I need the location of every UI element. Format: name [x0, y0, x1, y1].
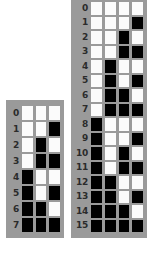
bit-cells	[90, 117, 144, 132]
row-index-label: 14	[75, 204, 90, 219]
bit-cell-on	[90, 219, 103, 234]
bit-cell-on	[118, 88, 131, 103]
bit-cell-on	[90, 146, 103, 161]
row-index-label: 2	[10, 137, 21, 153]
table-row: 8	[75, 117, 144, 132]
table-row: 7	[75, 103, 144, 118]
bit-cell-off	[90, 45, 103, 60]
bit-cell-on	[118, 30, 131, 45]
bit-cell-off	[35, 121, 48, 137]
bit-cell-off	[118, 16, 131, 31]
bit-cell-on	[104, 74, 117, 89]
bit-cells	[90, 161, 144, 176]
bit-cell-on	[118, 146, 131, 161]
row-index-label: 1	[10, 121, 21, 137]
row-index-label: 6	[10, 201, 21, 217]
bit-cell-on	[48, 153, 61, 169]
table-row: 15	[75, 219, 144, 234]
bit-cell-off	[131, 146, 144, 161]
bit-cell-on	[131, 190, 144, 205]
table-row: 14	[75, 204, 144, 219]
bit-cell-on	[35, 153, 48, 169]
table-row: 11	[75, 161, 144, 176]
bit-cell-on	[90, 132, 103, 147]
row-index-label: 4	[10, 169, 21, 185]
bit-cells	[90, 132, 144, 147]
bit-cell-off	[104, 16, 117, 31]
bit-cells	[90, 103, 144, 118]
row-index-label: 0	[10, 105, 21, 121]
bit-cell-on	[35, 217, 48, 233]
bit-cell-on	[131, 103, 144, 118]
bit-cell-off	[131, 59, 144, 74]
table-row: 3	[75, 45, 144, 60]
bit-cell-off	[35, 185, 48, 201]
table-row: 13	[75, 190, 144, 205]
bit-cells	[21, 217, 61, 233]
bit-cell-off	[48, 137, 61, 153]
table-row: 7	[10, 217, 61, 233]
bit-cell-off	[104, 1, 117, 16]
bit-cell-off	[48, 201, 61, 217]
bit-cell-on	[104, 103, 117, 118]
table-row: 12	[75, 175, 144, 190]
bit-cell-on	[90, 190, 103, 205]
bit-cell-on	[35, 201, 48, 217]
bit-cell-on	[104, 88, 117, 103]
bit-cell-on	[48, 217, 61, 233]
row-index-label: 5	[75, 74, 90, 89]
table-row: 3	[10, 153, 61, 169]
bit-cell-off	[118, 117, 131, 132]
bit-cell-off	[118, 175, 131, 190]
bit-cell-off	[90, 30, 103, 45]
bit-cell-off	[104, 117, 117, 132]
bit-cell-on	[131, 132, 144, 147]
table-row: 10	[75, 146, 144, 161]
row-index-label: 11	[75, 161, 90, 176]
table-row: 2	[75, 30, 144, 45]
four-bit-binary-table-panel: 0123456789101112131415	[71, 0, 147, 238]
bit-cells	[21, 121, 61, 137]
table-row: 6	[10, 201, 61, 217]
bit-cell-on	[131, 45, 144, 60]
bit-cells	[90, 146, 144, 161]
bit-cell-off	[118, 190, 131, 205]
bit-cell-off	[90, 88, 103, 103]
bit-cells	[90, 16, 144, 31]
bit-cell-off	[104, 146, 117, 161]
table-row: 2	[10, 137, 61, 153]
bit-cell-off	[131, 30, 144, 45]
bit-cell-off	[90, 1, 103, 16]
row-index-label: 13	[75, 190, 90, 205]
bit-cell-on	[118, 161, 131, 176]
bit-cell-on	[131, 219, 144, 234]
table-row: 9	[75, 132, 144, 147]
bit-cell-off	[104, 132, 117, 147]
bit-cells	[90, 204, 144, 219]
table-row: 4	[75, 59, 144, 74]
bit-cell-off	[35, 105, 48, 121]
bit-cells	[21, 137, 61, 153]
row-index-label: 6	[75, 88, 90, 103]
bit-cell-on	[90, 175, 103, 190]
bit-cell-on	[118, 103, 131, 118]
bit-cell-on	[21, 201, 34, 217]
table-row: 6	[75, 88, 144, 103]
row-index-label: 2	[75, 30, 90, 45]
bit-cells	[90, 88, 144, 103]
row-index-label: 7	[75, 103, 90, 118]
row-index-label: 12	[75, 175, 90, 190]
bit-cell-off	[118, 59, 131, 74]
bit-cell-off	[90, 103, 103, 118]
bit-cells	[90, 74, 144, 89]
bit-cells	[21, 201, 61, 217]
bit-cell-off	[131, 117, 144, 132]
row-index-label: 5	[10, 185, 21, 201]
bit-cell-off	[104, 45, 117, 60]
row-index-label: 1	[75, 16, 90, 31]
bit-cell-off	[118, 1, 131, 16]
bit-cell-on	[131, 74, 144, 89]
table-row: 5	[10, 185, 61, 201]
bit-cells	[90, 30, 144, 45]
table-row: 4	[10, 169, 61, 185]
